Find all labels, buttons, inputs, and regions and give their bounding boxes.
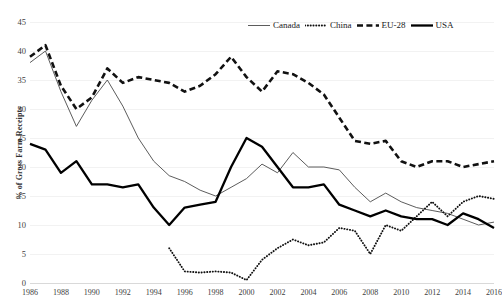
y-tick-label: 15 xyxy=(6,191,26,201)
x-tick-label: 1988 xyxy=(53,288,69,297)
y-tick-label: 25 xyxy=(6,133,26,143)
legend-item-eu-28[interactable]: EU-28 xyxy=(357,20,406,30)
series-line-usa xyxy=(30,138,494,228)
dotted-line-icon xyxy=(305,21,327,30)
x-tick-label: 1992 xyxy=(115,288,131,297)
legend-label: China xyxy=(330,20,352,30)
thick-solid-line-icon xyxy=(411,21,433,30)
x-tick-label: 2016 xyxy=(486,288,502,297)
y-tick-label: 35 xyxy=(6,75,26,85)
x-tick-label: 1986 xyxy=(22,288,38,297)
legend-item-china[interactable]: China xyxy=(305,20,352,30)
legend-label: USA xyxy=(436,20,454,30)
legend-item-canada[interactable]: Canada xyxy=(248,20,300,30)
y-tick-label: 10 xyxy=(6,220,26,230)
x-tick-label: 2012 xyxy=(424,288,440,297)
series-line-china xyxy=(169,196,494,280)
dashed-line-icon xyxy=(357,21,379,30)
x-tick-label: 2014 xyxy=(455,288,471,297)
x-tick-label: 2000 xyxy=(239,288,255,297)
plot-area xyxy=(30,22,494,283)
y-tick-label: 0 xyxy=(6,278,26,288)
x-tick-label: 2010 xyxy=(393,288,409,297)
axis-baseline xyxy=(30,283,494,284)
series-line-eu-28 xyxy=(30,45,494,167)
x-tick-label: 1990 xyxy=(84,288,100,297)
x-tick-label: 2002 xyxy=(269,288,285,297)
x-tick-label: 2006 xyxy=(331,288,347,297)
series-lines xyxy=(30,22,494,283)
y-tick-label: 5 xyxy=(6,249,26,259)
x-tick-label: 1994 xyxy=(146,288,162,297)
x-tick-label: 1998 xyxy=(208,288,224,297)
legend-label: Canada xyxy=(273,20,300,30)
series-line-canada xyxy=(30,51,494,225)
thin-solid-line-icon xyxy=(248,21,270,30)
legend-item-usa[interactable]: USA xyxy=(411,20,454,30)
y-tick-label: 20 xyxy=(6,162,26,172)
y-tick-label: 30 xyxy=(6,104,26,114)
x-tick-label: 1996 xyxy=(177,288,193,297)
chart-legend: CanadaChinaEU-28USA xyxy=(248,20,454,30)
x-tick-label: 2004 xyxy=(300,288,316,297)
x-tick-label: 2008 xyxy=(362,288,378,297)
legend-label: EU-28 xyxy=(382,20,406,30)
y-tick-label: 40 xyxy=(6,46,26,56)
y-tick-label: 45 xyxy=(6,17,26,27)
